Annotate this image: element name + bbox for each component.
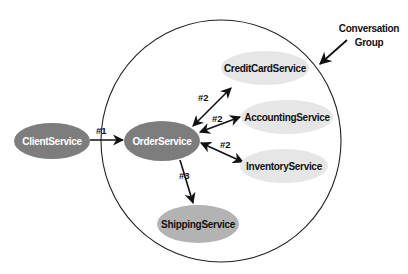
edge-label-order-shipping: #3 xyxy=(179,170,190,181)
node-order-service: OrderService xyxy=(124,121,200,161)
conversation-group-label-line1: Conversation xyxy=(339,23,399,34)
node-label-order-service: OrderService xyxy=(132,136,192,147)
conversation-group-pointer-arrow xyxy=(320,40,347,64)
edge-label-client-order: #1 xyxy=(96,125,107,136)
node-label-creditcard-service: CreditCardService xyxy=(224,63,307,74)
node-creditcard-service: CreditCardService xyxy=(221,51,309,85)
node-inventory-service: InventoryService xyxy=(240,149,328,183)
node-label-inventory-service: InventoryService xyxy=(246,161,323,172)
edge-label-order-accounting: #2 xyxy=(212,113,223,124)
node-label-accounting-service: AccountingService xyxy=(244,112,330,123)
edge-order-shipping xyxy=(180,160,193,203)
node-label-shipping-service: ShippingService xyxy=(161,219,236,230)
edge-label-order-creditcard: #2 xyxy=(198,92,209,103)
node-accounting-service: AccountingService xyxy=(241,100,333,134)
edge-label-order-inventory: #2 xyxy=(220,139,231,150)
conversation-group-diagram: Conversation Group #1 #2 #2 #2 #3 Client… xyxy=(0,0,408,274)
node-shipping-service: ShippingService xyxy=(157,205,239,243)
node-label-client-service: ClientService xyxy=(22,136,82,147)
node-client-service: ClientService xyxy=(14,123,90,159)
conversation-group-label-line2: Group xyxy=(355,37,384,48)
